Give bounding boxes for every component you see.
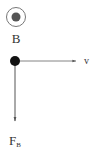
charged-particle bbox=[10, 56, 20, 66]
magnetic-field-out-of-page-icon bbox=[7, 8, 26, 27]
force-label: FB bbox=[9, 133, 21, 149]
velocity-label: v bbox=[84, 55, 89, 66]
force-label-main: F bbox=[9, 133, 16, 148]
field-label: B bbox=[12, 31, 21, 46]
diagram-canvas: B v FB bbox=[0, 0, 94, 156]
force-label-subscript: B bbox=[16, 141, 21, 149]
